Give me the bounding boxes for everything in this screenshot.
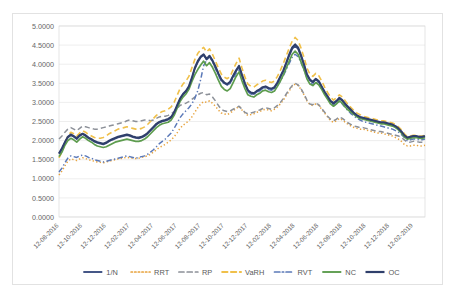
legend-item-oc[interactable]: OC <box>366 268 401 277</box>
legend-label: OC <box>389 268 401 277</box>
x-axis-tick-labels: 12-08-201612-10-201612-12-201612-02-2017… <box>32 221 415 249</box>
legend-item-varh[interactable]: VaRH <box>222 268 264 277</box>
y-tick-label: 2.5000 <box>32 117 54 126</box>
series-lines <box>59 37 425 175</box>
legend-label: RVT <box>298 268 313 277</box>
legend-item-rp[interactable]: RP <box>179 268 212 277</box>
legend-item-nc[interactable]: NC <box>322 268 356 277</box>
series-line-oc <box>59 44 425 153</box>
chart-card: 0.00000.50001.00001.50002.00002.50003.00… <box>12 13 443 285</box>
y-tick-label: 2.0000 <box>32 136 54 145</box>
legend-label: 1/N <box>106 268 118 277</box>
legend-label: VaRH <box>245 268 264 277</box>
legend-item-rvt[interactable]: RVT <box>275 268 313 277</box>
y-tick-label: 4.5000 <box>32 41 54 50</box>
legend-item-1-n[interactable]: 1/N <box>83 268 118 277</box>
series-line-rrt <box>59 84 425 175</box>
legend-label: RP <box>202 268 212 277</box>
legend-label: NC <box>345 268 356 277</box>
y-tick-label: 5.0000 <box>32 22 54 31</box>
legend-label: RRT <box>154 268 170 277</box>
y-tick-label: 3.0000 <box>32 98 54 107</box>
series-line-rp <box>59 83 425 142</box>
legend-item-rrt[interactable]: RRT <box>131 268 170 277</box>
y-axis-tick-labels: 0.00000.50001.00001.50002.00002.50003.00… <box>32 22 54 222</box>
line-chart: 0.00000.50001.00001.50002.00002.50003.00… <box>13 14 442 284</box>
y-tick-label: 4.0000 <box>32 60 54 69</box>
y-tick-label: 0.5000 <box>32 194 54 203</box>
x-tick-label: 12-02-2019 <box>386 221 414 249</box>
y-tick-label: 1.0000 <box>32 174 54 183</box>
chart-legend: 1/NRRTRPVaRHRVTNCOC <box>83 268 400 277</box>
y-tick-label: 1.5000 <box>32 155 54 164</box>
y-tick-label: 3.5000 <box>32 79 54 88</box>
y-tick-label: 0.0000 <box>32 213 54 222</box>
